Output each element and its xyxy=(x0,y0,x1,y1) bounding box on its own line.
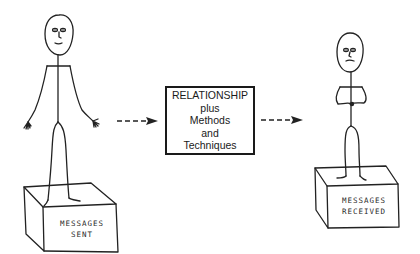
relationship-line: RELATIONSHIP xyxy=(172,89,248,102)
arrow-relationship-to-receiver xyxy=(261,116,303,124)
relationship-box: RELATIONSHIP plus Methods and Techniques xyxy=(165,86,255,155)
sender-label-line-2: SENT xyxy=(50,229,114,240)
and-line: and xyxy=(201,127,219,140)
plus-line: plus xyxy=(200,102,219,115)
arrow-sender-to-relationship xyxy=(117,117,158,125)
receiver-label-line-1: MESSAGES xyxy=(333,195,395,206)
receiver-figure xyxy=(336,33,366,180)
messages-sent-label: MESSAGES SENT xyxy=(50,218,114,240)
sender-label-line-1: MESSAGES xyxy=(50,218,114,229)
techniques-line: Techniques xyxy=(183,139,236,152)
messages-received-label: MESSAGES RECEIVED xyxy=(333,195,395,217)
methods-line: Methods xyxy=(190,114,230,127)
receiver-label-line-2: RECEIVED xyxy=(333,206,395,217)
sender-figure xyxy=(24,15,99,206)
communication-diagram: RELATIONSHIP plus Methods and Techniques… xyxy=(0,0,420,254)
